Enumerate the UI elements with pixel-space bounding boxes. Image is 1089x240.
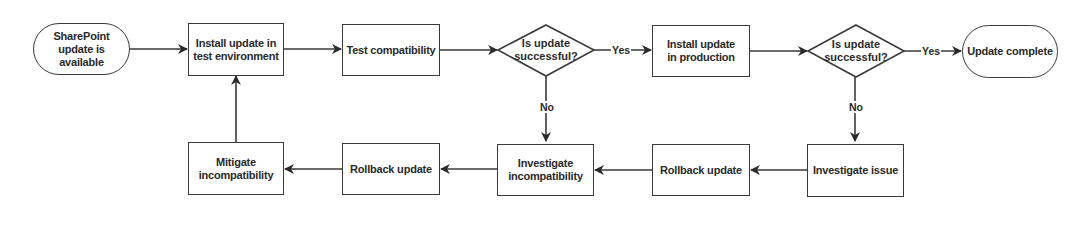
node-start[interactable]: SharePoint update is available <box>33 23 130 75</box>
node-test-compatibility-label: Test compatibility <box>346 44 435 57</box>
node-install-test-label: Install update in test environment <box>189 37 283 63</box>
node-install-test[interactable]: Install update in test environment <box>188 23 284 76</box>
decision2-label: Is update successful? <box>820 36 892 66</box>
node-investigate-issue[interactable]: Investigate issue <box>807 144 904 197</box>
node-investigate-incompatibility-label: Investigate incompatibility <box>506 157 586 183</box>
decision1-yes-label: Yes <box>611 44 631 56</box>
node-rollback-update-2-label: Rollback update <box>660 164 742 177</box>
node-rollback-update-1-label: Rollback update <box>350 163 432 176</box>
node-mitigate-incompatibility-label: Mitigate incompatibility <box>196 156 276 182</box>
node-rollback-update-2[interactable]: Rollback update <box>652 144 750 196</box>
node-install-production[interactable]: Install update in production <box>652 25 750 77</box>
node-mitigate-incompatibility[interactable]: Mitigate incompatibility <box>188 142 284 195</box>
node-start-label: SharePoint update is available <box>40 30 124 69</box>
node-rollback-update-1[interactable]: Rollback update <box>342 143 440 195</box>
node-update-complete[interactable]: Update complete <box>962 25 1058 78</box>
decision1-no-label: No <box>539 101 555 113</box>
decision1-label: Is update successful? <box>510 35 582 65</box>
node-update-complete-label: Update complete <box>967 45 1053 58</box>
node-test-compatibility[interactable]: Test compatibility <box>342 24 440 76</box>
decision2-yes-label: Yes <box>921 45 941 57</box>
node-investigate-issue-label: Investigate issue <box>813 164 898 177</box>
decision2-no-label: No <box>848 101 864 113</box>
node-investigate-incompatibility[interactable]: Investigate incompatibility <box>497 144 594 196</box>
node-install-production-label: Install update in production <box>661 38 741 64</box>
